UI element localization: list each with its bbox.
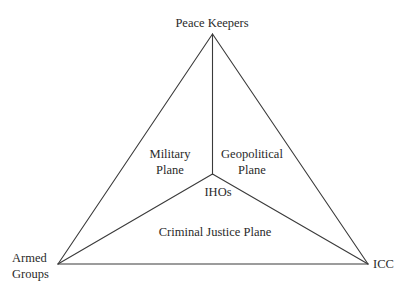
vertex-label-peace-keepers: Peace Keepers: [152, 15, 272, 31]
vertex-label-icc: ICC: [373, 256, 409, 272]
plane-label-geopolitical: Geopolitical Plane: [216, 146, 288, 178]
icc-text: ICC: [373, 256, 409, 272]
plane-label-military: Military Plane: [138, 146, 202, 178]
armed-groups-line-1: Armed: [12, 250, 58, 266]
edge-ihos-armedgroups: [58, 174, 213, 264]
plane-label-criminal-justice: Criminal Justice Plane: [140, 224, 290, 240]
military-plane-line-2: Plane: [138, 162, 202, 178]
vertex-label-armed-groups: Armed Groups: [4, 250, 58, 282]
geopolitical-plane-line-2: Plane: [216, 162, 288, 178]
military-plane-line-1: Military: [138, 146, 202, 162]
triangle-diagram: [0, 0, 410, 292]
geopolitical-plane-line-1: Geopolitical: [216, 146, 288, 162]
ihos-text: IHOs: [196, 184, 240, 200]
armed-groups-line-2: Groups: [12, 266, 58, 282]
center-label-ihos: IHOs: [196, 184, 240, 200]
peace-keepers-text: Peace Keepers: [152, 15, 272, 31]
criminal-justice-plane-text: Criminal Justice Plane: [140, 224, 290, 240]
